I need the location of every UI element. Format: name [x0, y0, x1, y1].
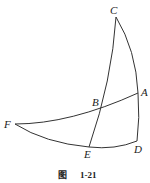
arc-d-e	[89, 141, 137, 148]
caption-prefix: 图	[58, 170, 67, 180]
label-b: B	[92, 96, 99, 108]
label-c: C	[110, 4, 118, 16]
arc-c-b-e	[89, 17, 116, 147]
caption-number: 1-21	[80, 170, 97, 180]
label-a: A	[140, 86, 148, 98]
arc-f-b-a	[15, 93, 138, 124]
label-e: E	[83, 148, 91, 160]
arc-e-f	[15, 124, 89, 147]
label-f: F	[3, 118, 11, 130]
arc-c-a	[116, 17, 138, 93]
label-d: D	[133, 143, 142, 155]
arc-a-d	[137, 93, 139, 141]
spherical-triangle-diagram: C A B F D E 图 1-21	[0, 0, 150, 183]
